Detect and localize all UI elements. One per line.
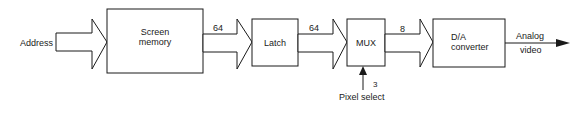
screen-memory-label-line2: memory — [107, 37, 203, 47]
bus-width-memory-latch: 64 — [213, 23, 223, 33]
bus-width-latch-mux: 64 — [309, 23, 319, 33]
pixel-select-label: Pixel select — [339, 92, 385, 102]
video-label: video — [520, 45, 542, 55]
address-label: Address — [20, 38, 53, 48]
bus-arrow-memory-latch — [203, 19, 252, 69]
screen-memory-label: Screen memory — [107, 27, 203, 47]
pixel-select-arrowhead — [359, 66, 367, 75]
bus-arrow-latch-mux — [298, 19, 347, 69]
block-diagram — [0, 0, 588, 113]
da-converter-label-line2: converter — [451, 42, 489, 52]
da-converter-label: D/A converter — [451, 32, 489, 52]
analog-video-arrowhead — [556, 39, 570, 47]
mux-label: MUX — [347, 38, 385, 48]
screen-memory-label-line1: Screen — [107, 27, 203, 37]
latch-label: Latch — [252, 38, 298, 48]
da-converter-label-line1: D/A — [451, 32, 489, 42]
bus-arrow-mux-da — [385, 19, 433, 67]
analog-label: Analog — [516, 31, 544, 41]
address-bus-arrow — [56, 19, 107, 69]
pixel-select-width: 3 — [373, 80, 377, 90]
bus-width-mux-da: 8 — [400, 24, 405, 34]
